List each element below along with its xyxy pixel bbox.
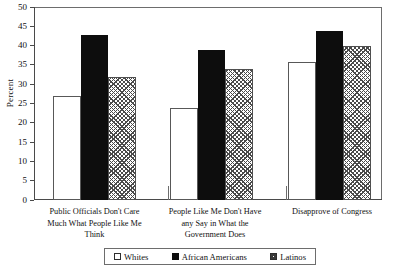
legend-item-whites[interactable]: Whites — [114, 252, 148, 262]
y-tick-label: 30 — [18, 79, 27, 90]
y-tick-0: 0 — [0, 195, 34, 206]
y-tick-mark — [30, 122, 34, 123]
bar-group3-latinos — [343, 46, 371, 200]
bar-group3-whites — [288, 62, 316, 201]
y-tick-30: 30 — [0, 79, 34, 90]
y-tick-40: 40 — [0, 40, 34, 51]
legend-label-whites: Whites — [124, 252, 148, 262]
open-square-icon — [114, 253, 121, 260]
group-separator-2 — [286, 186, 287, 200]
y-tick-mark — [30, 45, 34, 46]
group-separator-1 — [168, 186, 169, 200]
y-tick-label: 25 — [18, 98, 27, 109]
y-tick-25: 25 — [0, 98, 34, 109]
x-category-label-3: Disapprove of Congress — [274, 206, 390, 218]
x-category-label-2: People Like Me Don't Have any Say in Wha… — [155, 206, 275, 241]
y-tick-mark — [30, 161, 34, 162]
y-tick-label: 10 — [18, 156, 27, 167]
y-axis-title: Percent — [5, 63, 15, 123]
legend-label-latinos: Latinos — [280, 252, 306, 262]
bar-group3-african-americans — [316, 31, 344, 201]
bar-group1-african-americans — [81, 35, 109, 201]
hatched-square-icon — [270, 253, 277, 260]
y-tick-label: 45 — [18, 21, 27, 32]
y-tick-label: 50 — [18, 2, 27, 13]
legend-item-african-americans[interactable]: African Americans — [172, 252, 247, 262]
y-tick-35: 35 — [0, 59, 34, 70]
y-tick-mark — [30, 7, 34, 8]
y-tick-label: 0 — [23, 195, 28, 206]
y-tick-50: 50 — [0, 2, 34, 13]
bar-group2-african-americans — [198, 50, 226, 201]
y-tick-mark — [30, 142, 34, 143]
bar-group1-latinos — [108, 77, 136, 201]
y-tick-label: 20 — [18, 117, 27, 128]
y-tick-15: 15 — [0, 137, 34, 148]
bar-group1-whites — [53, 96, 81, 200]
bar-group2-latinos — [225, 69, 253, 200]
x-category-label-1: Public Officials Don't Care Much What Pe… — [28, 206, 161, 241]
y-tick-20: 20 — [0, 117, 34, 128]
y-tick-label: 15 — [18, 137, 27, 148]
y-tick-mark — [30, 103, 34, 104]
y-tick-mark — [30, 26, 34, 27]
y-tick-45: 45 — [0, 21, 34, 32]
y-tick-label: 35 — [18, 59, 27, 70]
chart-legend: Whites African Americans Latinos — [104, 248, 316, 265]
y-tick-10: 10 — [0, 156, 34, 167]
legend-item-latinos[interactable]: Latinos — [270, 252, 306, 262]
y-tick-mark — [30, 84, 34, 85]
legend-label-african-americans: African Americans — [182, 252, 247, 262]
y-tick-mark — [30, 200, 34, 201]
y-tick-5: 5 — [0, 175, 34, 186]
filled-square-icon — [172, 253, 179, 260]
y-tick-mark — [30, 180, 34, 181]
y-tick-label: 5 — [23, 175, 28, 186]
y-tick-label: 40 — [18, 40, 27, 51]
y-tick-mark — [30, 64, 34, 65]
bar-group2-whites — [170, 108, 198, 201]
bar-chart: Percent 05101520253035404550 Public Offi… — [0, 0, 395, 275]
